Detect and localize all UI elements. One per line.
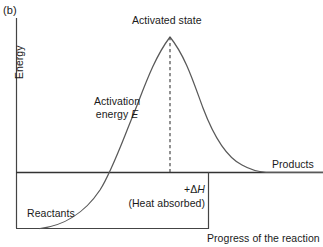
enthalpy-change-label: +ΔH (Heat absorbed) <box>116 183 205 210</box>
activation-energy-label: Activation energy E <box>94 95 140 121</box>
reactants-label: Reactants <box>27 207 75 220</box>
delta-h-symbol: +Δ <box>184 183 197 195</box>
activation-energy-symbol: E <box>131 108 138 120</box>
activation-energy-line2: energy <box>96 108 128 120</box>
x-axis-title: Progress of the reaction <box>207 232 320 245</box>
heat-absorbed-note: (Heat absorbed) <box>128 197 205 209</box>
delta-h-italic-h: H <box>197 183 205 195</box>
products-label: Products <box>272 158 314 171</box>
y-axis-title: Energy <box>13 32 26 92</box>
energy-profile-figure: (b) Energy Activated state Activation en… <box>0 0 323 247</box>
panel-label: (b) <box>3 4 17 17</box>
activation-energy-line1: Activation <box>94 95 140 107</box>
activated-state-label: Activated state <box>132 14 202 27</box>
